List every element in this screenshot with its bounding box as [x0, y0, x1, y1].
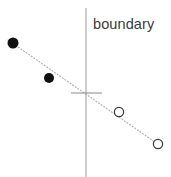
boundary-label: boundary — [93, 16, 155, 32]
filled-data-point — [8, 38, 19, 49]
figure-canvas: boundary — [0, 0, 171, 177]
filled-data-point — [44, 73, 54, 83]
boundary-scatter-figure: boundary — [0, 0, 171, 177]
open-data-point — [114, 107, 123, 116]
open-data-point — [153, 139, 162, 148]
